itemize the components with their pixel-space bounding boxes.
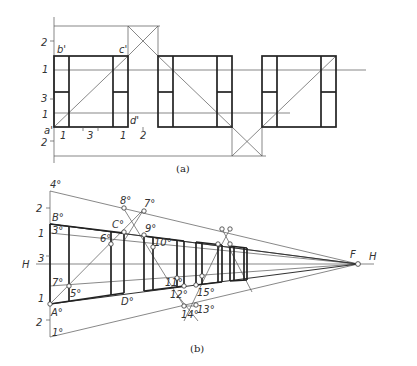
- point-label: 10°: [154, 237, 172, 248]
- tick-label: 2: [41, 37, 47, 48]
- tick-label: 1: [60, 130, 66, 141]
- tick-label: 1: [120, 130, 126, 141]
- tick-label: 3: [41, 93, 47, 104]
- tick-label: 2: [41, 137, 47, 148]
- point-label: 11°: [165, 277, 183, 288]
- tick-label: 1: [42, 109, 48, 120]
- tick-label: 1: [42, 64, 48, 75]
- point-label-a: a': [44, 125, 53, 136]
- point-label: 8°: [120, 195, 131, 206]
- figure-a-elevation: 2 1 3 1 2 1 3 1 2 b' c' a' d' (a): [41, 17, 366, 174]
- tick-label: 2: [36, 203, 42, 214]
- point-label: 6°: [100, 233, 111, 244]
- point-label: 12°: [170, 289, 188, 300]
- point-label: 13°: [197, 304, 215, 315]
- point-label: C°: [112, 219, 124, 230]
- tick-label: 3: [87, 130, 93, 141]
- point-label: 4°: [50, 179, 61, 190]
- point-label: 7°: [144, 198, 155, 209]
- point-label: 3°: [52, 225, 63, 236]
- point-label: A°: [50, 307, 63, 318]
- point-label: 15°: [197, 287, 215, 298]
- tick-label: 1: [38, 228, 44, 239]
- horizon-label-left: H: [22, 259, 30, 270]
- tick-label: 2: [36, 317, 42, 328]
- point-label: 7°: [52, 277, 63, 288]
- point-label: 1°: [52, 327, 63, 338]
- horizon-label-right: H: [369, 251, 377, 262]
- figure-a-caption: (a): [176, 163, 190, 174]
- point-label: B°: [52, 212, 64, 223]
- vanishing-point-label: F: [350, 249, 356, 260]
- point-label-d: d': [130, 115, 139, 126]
- tick-label: 2: [140, 130, 146, 141]
- point-label: 5°: [70, 288, 81, 299]
- tick-label: 3: [38, 253, 44, 264]
- point-label: 9°: [145, 223, 156, 234]
- point-label-b: b': [57, 44, 66, 55]
- point-label: D°: [121, 296, 134, 307]
- tick-label: 1: [38, 293, 44, 304]
- figure-b-perspective: 2 1 3 1 2 H H F 4° B° 3° 7° A° 1° 5° 6° …: [22, 179, 377, 354]
- point-label-c: c': [119, 44, 127, 55]
- perspective-drawing: 2 1 3 1 2 1 3 1 2 b' c' a' d' (a): [0, 0, 417, 366]
- figure-b-caption: (b): [190, 343, 204, 354]
